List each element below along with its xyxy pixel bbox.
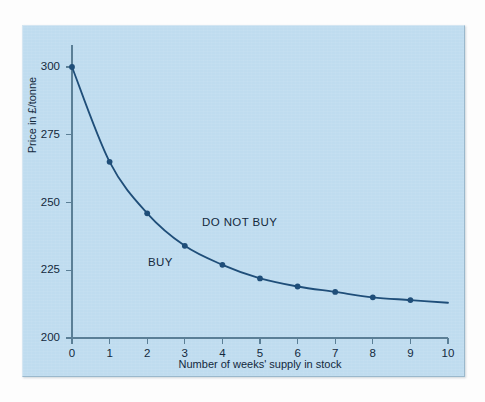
y-tick-label: 200 — [18, 331, 60, 343]
series-data-point — [144, 210, 150, 216]
series-data-point — [257, 275, 263, 281]
chart-figure: 200225250275300012345678910 Price in £/t… — [0, 0, 485, 402]
plot-vector-layer — [0, 0, 485, 402]
x-axis-title: Number of weeks' supply in stock — [72, 358, 448, 370]
series-data-point — [332, 289, 338, 295]
y-axis-title: Price in £/tonne — [26, 60, 38, 170]
series-data-point — [408, 297, 414, 303]
series-line — [72, 67, 448, 303]
y-tick-label: 225 — [18, 263, 60, 275]
series-data-point — [182, 243, 188, 249]
series-data-point — [370, 294, 376, 300]
series-data-point — [295, 284, 301, 290]
y-tick-label: 275 — [18, 128, 60, 140]
annotation-do-not-buy: DO NOT BUY — [202, 216, 277, 228]
series-data-point — [69, 64, 75, 70]
y-tick-label: 250 — [18, 196, 60, 208]
series-data-point — [107, 159, 113, 165]
y-tick-label: 300 — [18, 60, 60, 72]
annotation-buy: BUY — [148, 256, 173, 268]
series-data-point — [220, 262, 226, 268]
series-group — [69, 64, 448, 303]
